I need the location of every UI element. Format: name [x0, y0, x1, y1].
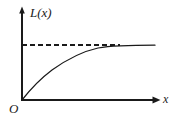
y-axis-label: L(x): [29, 5, 52, 20]
lx-curve: [22, 45, 155, 100]
figure-container: L(x) x O: [0, 0, 175, 124]
y-axis-arrowhead: [19, 7, 25, 14]
origin-label: O: [9, 101, 19, 116]
x-axis-arrowhead: [153, 97, 161, 104]
x-axis-label: x: [162, 92, 169, 106]
plot-area: L(x) x O: [0, 0, 175, 124]
